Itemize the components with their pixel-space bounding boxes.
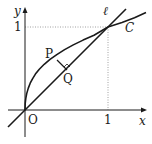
curve-c-label: C (125, 21, 134, 35)
x-tick-label: 1 (104, 113, 112, 127)
y-axis-label: y (13, 4, 21, 18)
y-axis (23, 7, 28, 137)
point-p-label: P (45, 47, 53, 61)
point-q-label: Q (63, 72, 73, 86)
x-axis (8, 108, 147, 113)
line-l-label: ℓ (103, 4, 108, 18)
y-axis-arrow-icon (23, 7, 28, 13)
origin-label: O (28, 113, 38, 127)
function-graph-diagram: y 1 O 1 x ℓ C P Q (0, 0, 152, 144)
x-axis-label: x (139, 114, 146, 128)
x-axis-arrow-icon (141, 108, 147, 113)
y-tick-label: 1 (14, 20, 22, 34)
